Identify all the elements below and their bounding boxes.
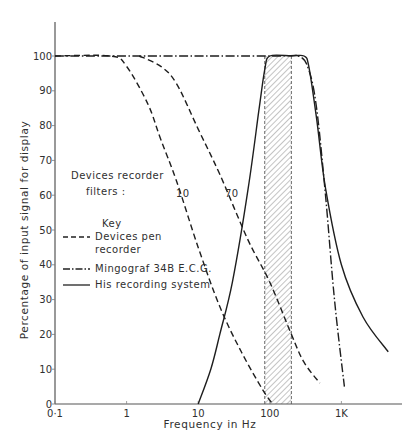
- filters-heading: Devices recorder: [71, 170, 164, 181]
- filters-heading-line2: filters :: [86, 186, 126, 197]
- x-tick-label: 0·1: [47, 408, 63, 419]
- filter-10-label: 10: [176, 188, 190, 199]
- series-line-dashed: [55, 55, 273, 404]
- y-tick-label: 30: [39, 294, 52, 305]
- x-tick-label: 1K: [335, 408, 348, 419]
- y-tick-label: 100: [33, 51, 52, 62]
- legend-entry-devices-pen: Devices pen: [95, 231, 162, 242]
- y-tick-label: 80: [39, 120, 52, 131]
- y-tick-label: 70: [39, 155, 52, 166]
- legend-entry-mingograf: Mingograf 34B E.C.G.: [95, 263, 212, 274]
- x-tick-label: 1: [123, 408, 129, 419]
- x-axis-title: Frequency in Hz: [164, 418, 257, 430]
- y-axis-title: Percentage of input signal for display: [18, 121, 30, 339]
- series-line-solid: [198, 55, 388, 404]
- frequency-response-chart: 0102030405060708090100 0·11101001K Frequ…: [0, 0, 417, 447]
- y-tick-label: 20: [39, 329, 52, 340]
- y-axis-ticks: 0102030405060708090100: [33, 51, 55, 410]
- series-line-dash-dot: [55, 55, 344, 387]
- legend: Key Devices pen recorder Mingograf 34B E…: [63, 218, 212, 290]
- y-tick-label: 50: [39, 225, 52, 236]
- series-lines: [55, 55, 388, 404]
- y-tick-label: 10: [39, 364, 52, 375]
- legend-entry-devices-pen-line2: recorder: [95, 244, 142, 255]
- y-tick-label: 40: [39, 259, 52, 270]
- legend-title: Key: [102, 218, 122, 229]
- shaded-passband: [265, 56, 292, 404]
- y-tick-label: 90: [39, 85, 52, 96]
- hatched-region: [265, 56, 292, 404]
- y-tick-label: 60: [39, 190, 52, 201]
- x-tick-label: 100: [260, 408, 279, 419]
- filter-70-label: 70: [225, 188, 239, 199]
- legend-entry-his-system: His recording system: [95, 279, 210, 290]
- series-line-dashed: [139, 56, 320, 383]
